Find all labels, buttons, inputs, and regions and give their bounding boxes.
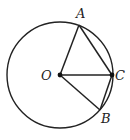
label-c: C bbox=[115, 68, 125, 83]
label-a: A bbox=[75, 6, 85, 21]
segment-oa bbox=[60, 25, 79, 75]
geometry-diagram: A O C B bbox=[0, 0, 130, 140]
point-o-dot bbox=[58, 73, 63, 78]
label-o: O bbox=[41, 68, 52, 83]
label-b: B bbox=[100, 111, 111, 126]
point-c-dot bbox=[110, 73, 115, 78]
segment-ob bbox=[60, 75, 100, 110]
